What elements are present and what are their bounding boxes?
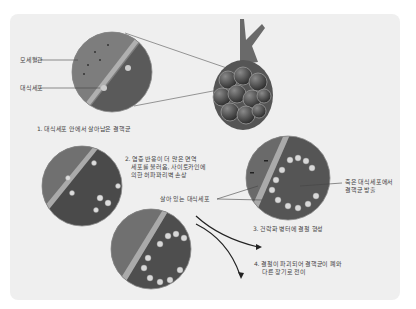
circle-step4 xyxy=(108,208,198,293)
alveolus-icon xyxy=(213,19,273,130)
tuberculosis-diagram-art xyxy=(0,0,416,309)
label-step2-line1: 2. 염증 반응이 더 많은 면역 xyxy=(125,155,197,163)
label-dead-macrophage-line2: 결핵균 방출 xyxy=(345,186,376,194)
label-macrophage: 대식세포 xyxy=(20,84,43,92)
arrows xyxy=(196,216,258,275)
label-live-macrophage: 살아 있는 대식세포 xyxy=(160,195,210,203)
label-step3: 3. 건락화 병터에 결절 형성 xyxy=(253,225,323,233)
label-step2-line2: 세포를 불러옴, 사이토카인에 xyxy=(131,163,206,171)
label-step4-line1: 4. 결절이 파괴되어 결핵균이 폐와 xyxy=(254,260,342,268)
label-dead-macrophage-line1: 죽은 대식세포에서 xyxy=(345,178,393,186)
label-capillary: 모세혈관 xyxy=(20,56,43,64)
circle-step1 xyxy=(60,30,170,120)
label-step4-line2: 다른 장기로 전이 xyxy=(262,268,306,276)
circle-step3 xyxy=(240,130,340,225)
label-step1: 1. 대식세포 안에서 살아남은 결핵균 xyxy=(37,125,130,133)
label-step2-line3: 의한 허파꽈리벽 손상 xyxy=(131,171,187,179)
